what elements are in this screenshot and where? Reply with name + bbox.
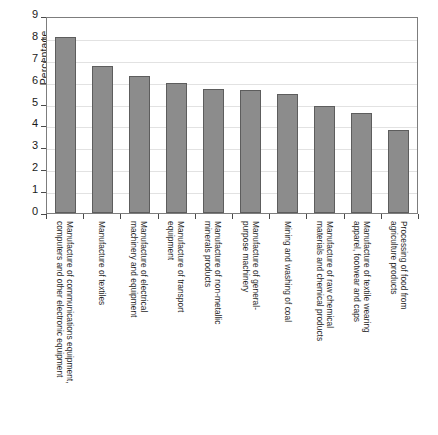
bar-slot [84, 18, 121, 213]
x-axis-label: Processing of food from agriculture prod… [389, 221, 409, 421]
x-label-slot: Processing of food from agriculture prod… [381, 221, 418, 427]
x-axis-label: Manufacture of textiles [97, 221, 107, 421]
x-axis-label: Manufacture of general- purpose machiner… [241, 221, 261, 421]
bar-chart-figure: Percentage 0123456789 Manufacture of com… [0, 0, 438, 435]
x-axis-label: Manufacture of textile wearing apparel, … [352, 221, 372, 421]
x-axis-label: Manufacture of transport equipment [166, 221, 186, 421]
x-axis-label: Manufacture of raw chemical materials an… [315, 221, 335, 421]
bar-slot [269, 18, 306, 213]
y-tick-label: 9 [32, 9, 38, 20]
bar-slot [343, 18, 380, 213]
bar-slot [306, 18, 343, 213]
x-label-slot: Manufacture of electrical machinery and … [120, 221, 157, 427]
bar-slot [158, 18, 195, 213]
y-tick-label: 0 [32, 206, 38, 217]
bar [166, 83, 187, 213]
y-axis-ticks: 0123456789 [0, 17, 46, 214]
x-axis-label: Mining and washing of coal [283, 221, 293, 421]
x-label-slot: Manufacture of general- purpose machiner… [232, 221, 269, 427]
bar [351, 113, 372, 213]
y-tick-label: 6 [32, 75, 38, 86]
x-tick-mark [418, 214, 419, 219]
bar [129, 76, 150, 213]
x-label-slot: Manufacture of textiles [83, 221, 120, 427]
y-tick-label: 8 [32, 31, 38, 42]
bar-slot [121, 18, 158, 213]
bar [55, 37, 76, 213]
bar-slot [195, 18, 232, 213]
x-tick-mark [306, 214, 307, 219]
x-axis-label: Manufacture of electrical machinery and … [129, 221, 149, 421]
y-tick-label: 1 [32, 184, 38, 195]
x-tick-mark [232, 214, 233, 219]
bar [92, 66, 113, 213]
y-tick-label: 7 [32, 53, 38, 64]
plot-area [46, 17, 418, 214]
x-label-slot: Manufacture of raw chemical materials an… [306, 221, 343, 427]
x-tick-mark [120, 214, 121, 219]
x-axis-category-labels: Manufacture of communications equipment,… [46, 221, 418, 427]
x-label-slot: Manufacture of non-metallic minerals pro… [195, 221, 232, 427]
x-tick-mark [83, 214, 84, 219]
x-tick-mark [46, 214, 47, 219]
bar [203, 89, 224, 213]
bar [277, 94, 298, 213]
x-label-slot: Mining and washing of coal [269, 221, 306, 427]
bar-slot [380, 18, 417, 213]
x-axis-label: Manufacture of non-metallic minerals pro… [203, 221, 223, 421]
x-tick-mark [195, 214, 196, 219]
x-label-slot: Manufacture of transport equipment [158, 221, 195, 427]
x-tick-mark [344, 214, 345, 219]
x-axis-ticks [46, 214, 418, 220]
bar [314, 106, 335, 213]
x-label-slot: Manufacture of communications equipment,… [46, 221, 83, 427]
x-tick-mark [158, 214, 159, 219]
y-tick-label: 5 [32, 97, 38, 108]
bar-series [47, 18, 417, 213]
y-tick-label: 2 [32, 162, 38, 173]
y-tick-label: 4 [32, 118, 38, 129]
x-tick-mark [381, 214, 382, 219]
x-axis-label: Manufacture of communications equipment,… [55, 221, 75, 421]
bar-slot [47, 18, 84, 213]
x-label-slot: Manufacture of textile wearing apparel, … [344, 221, 381, 427]
x-tick-mark [269, 214, 270, 219]
bar [240, 90, 261, 213]
bar [388, 130, 409, 213]
y-tick-label: 3 [32, 140, 38, 151]
bar-slot [232, 18, 269, 213]
